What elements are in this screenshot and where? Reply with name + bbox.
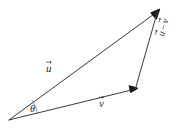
vector-v-shaft [9,90,133,120]
label-vector-u: u [46,61,52,74]
label-vector-v: v [99,96,104,109]
label-angle-theta: θ [30,104,35,114]
vector-u-glyph: u [46,61,52,74]
vector-u-minus-v-line [136,12,158,89]
label-v-symbol: v [99,98,104,109]
label-u-symbol: u [46,63,52,74]
vector-diagram-figure: u v u − v θ [0,0,190,128]
overarrow-icon [46,60,52,64]
overarrow-icon [99,95,104,99]
vector-u-minus-v-shaft [136,12,158,89]
vector-v-arrow [9,86,137,120]
vector-v-glyph: v [99,96,104,109]
